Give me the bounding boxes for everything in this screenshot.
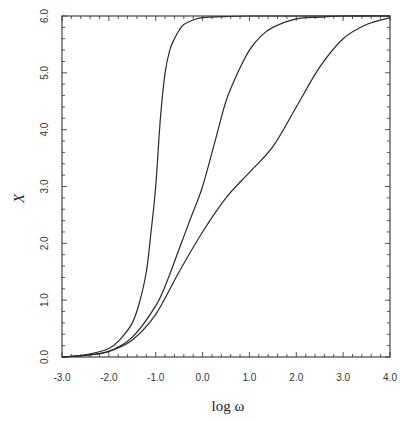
curve-1-line: [62, 16, 390, 357]
y-tick-label: 5.0: [39, 65, 50, 79]
y-axis-title: X: [11, 193, 27, 204]
x-tick-label: 0.0: [196, 372, 210, 383]
x-tick-label: 4.0: [383, 372, 397, 383]
line-chart: -3.0-2.0-1.00.01.02.03.04.0 0.01.02.03.0…: [0, 0, 409, 422]
curve-3-line: [62, 18, 390, 357]
x-tick-label: 2.0: [289, 372, 303, 383]
plot-frame: [62, 16, 390, 357]
x-tick-label: 1.0: [242, 372, 256, 383]
y-tick-labels: 0.01.02.03.04.05.06.0: [39, 9, 50, 364]
y-tick-label: 3.0: [39, 179, 50, 193]
y-tick-label: 2.0: [39, 236, 50, 250]
axis-ticks: [62, 16, 390, 357]
x-tick-labels: -3.0-2.0-1.00.01.02.03.04.0: [53, 372, 397, 383]
y-tick-label: 6.0: [39, 9, 50, 23]
y-tick-label: 0.0: [39, 350, 50, 364]
x-tick-label: -3.0: [53, 372, 71, 383]
x-axis-title: log ω: [212, 398, 245, 414]
y-tick-label: 1.0: [39, 293, 50, 307]
x-tick-label: 3.0: [336, 372, 350, 383]
data-curves: [62, 16, 390, 357]
x-tick-label: -1.0: [147, 372, 165, 383]
x-tick-label: -2.0: [100, 372, 118, 383]
y-tick-label: 4.0: [39, 122, 50, 136]
curve-2-line: [62, 16, 390, 357]
